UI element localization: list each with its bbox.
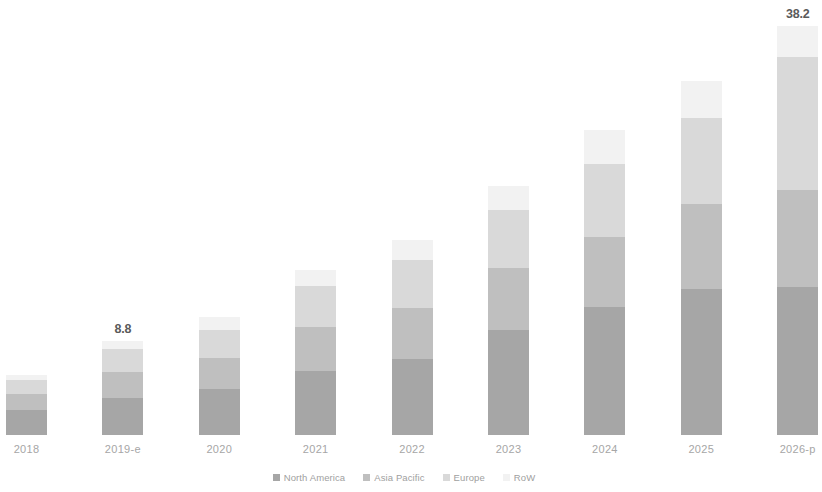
square-swatch-icon xyxy=(503,474,510,481)
bar-segment-asia-pacific[interactable] xyxy=(199,358,240,389)
bar-segment-asia-pacific[interactable] xyxy=(681,204,722,290)
bar-segment-asia-pacific[interactable] xyxy=(102,372,143,398)
bar-segment-asia-pacific[interactable] xyxy=(6,394,47,410)
bar-segment-europe[interactable] xyxy=(102,349,143,371)
bar-2023[interactable] xyxy=(488,186,529,435)
bar-segment-row[interactable] xyxy=(584,130,625,164)
x-axis-tick-2023: 2023 xyxy=(464,443,554,455)
bar-segment-europe[interactable] xyxy=(681,118,722,204)
square-swatch-icon xyxy=(273,474,280,481)
bar-segment-north-america[interactable] xyxy=(295,371,336,435)
bar-2024[interactable] xyxy=(584,130,625,435)
bar-segment-europe[interactable] xyxy=(6,380,47,394)
bar-segment-north-america[interactable] xyxy=(6,410,47,435)
bar-segment-europe[interactable] xyxy=(488,210,529,268)
bar-segment-europe[interactable] xyxy=(392,260,433,308)
bar-segment-europe[interactable] xyxy=(777,57,818,190)
bar-segment-asia-pacific[interactable] xyxy=(392,308,433,359)
bar-segment-europe[interactable] xyxy=(199,330,240,358)
x-axis-tick-2019-e: 2019-e xyxy=(78,443,168,455)
bar-segment-row[interactable] xyxy=(199,317,240,330)
legend-item-row[interactable]: RoW xyxy=(503,472,535,483)
bar-segment-north-america[interactable] xyxy=(199,389,240,435)
bar-2020[interactable] xyxy=(199,317,240,435)
bar-segment-europe[interactable] xyxy=(584,164,625,237)
bar-segment-row[interactable] xyxy=(295,270,336,286)
bar-segment-north-america[interactable] xyxy=(102,398,143,435)
bar-segment-row[interactable] xyxy=(102,341,143,350)
bar-2021[interactable] xyxy=(295,270,336,435)
legend-item-europe[interactable]: Europe xyxy=(443,472,485,483)
bar-2019-e[interactable] xyxy=(102,341,143,435)
bar-segment-asia-pacific[interactable] xyxy=(777,190,818,287)
bar-2025[interactable] xyxy=(681,81,722,435)
x-axis-tick-2022: 2022 xyxy=(367,443,457,455)
bar-segment-north-america[interactable] xyxy=(777,287,818,435)
bar-segment-asia-pacific[interactable] xyxy=(584,237,625,307)
x-axis-tick-2021: 2021 xyxy=(271,443,361,455)
bar-2018[interactable] xyxy=(6,375,47,435)
data-label-2026-p: 38.2 xyxy=(758,7,822,21)
x-axis-labels: 20182019-e2020202120222023202420252026-p xyxy=(0,443,808,465)
x-axis-tick-2026-p: 2026-p xyxy=(753,443,822,455)
bar-segment-row[interactable] xyxy=(777,26,818,57)
bar-segment-north-america[interactable] xyxy=(681,289,722,435)
legend-label: RoW xyxy=(514,472,535,483)
data-label-2019-e: 8.8 xyxy=(83,322,163,336)
x-axis-tick-2024: 2024 xyxy=(560,443,650,455)
legend-item-north-america[interactable]: North America xyxy=(273,472,346,483)
x-axis-tick-2018: 2018 xyxy=(0,443,72,455)
bar-segment-row[interactable] xyxy=(488,186,529,211)
chart-legend: North AmericaAsia PacificEuropeRoW xyxy=(0,472,808,483)
square-swatch-icon xyxy=(443,474,450,481)
bar-segment-north-america[interactable] xyxy=(584,307,625,435)
legend-label: Asia Pacific xyxy=(374,472,424,483)
x-axis-tick-2025: 2025 xyxy=(656,443,746,455)
bar-segment-row[interactable] xyxy=(681,81,722,118)
x-axis-tick-2020: 2020 xyxy=(174,443,264,455)
bar-segment-asia-pacific[interactable] xyxy=(488,268,529,330)
square-swatch-icon xyxy=(363,474,370,481)
bar-segment-north-america[interactable] xyxy=(392,359,433,435)
plot-area xyxy=(0,0,808,435)
legend-label: North America xyxy=(284,472,346,483)
bar-segment-north-america[interactable] xyxy=(488,330,529,435)
bar-2022[interactable] xyxy=(392,240,433,435)
bar-segment-europe[interactable] xyxy=(295,286,336,327)
bar-segment-row[interactable] xyxy=(392,240,433,259)
legend-item-asia-pacific[interactable]: Asia Pacific xyxy=(363,472,424,483)
bar-segment-asia-pacific[interactable] xyxy=(295,327,336,371)
bar-2026-p[interactable] xyxy=(777,26,818,435)
legend-label: Europe xyxy=(454,472,485,483)
